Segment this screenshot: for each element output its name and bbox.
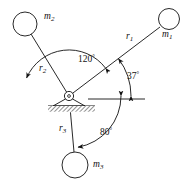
- arm-r2: [31, 34, 69, 96]
- pivot-dot: [68, 95, 71, 98]
- arm-r3-label: r3: [59, 124, 66, 134]
- mass-m3-label: m3: [93, 160, 103, 170]
- mass-m1-label: m1: [162, 30, 172, 40]
- pivot-support: [48, 91, 95, 112]
- arm-r1-label: r1: [126, 32, 133, 42]
- physics-diagram: m2 m1 m3 r1 r2 r3 120° 37° 80°: [0, 0, 192, 193]
- ground-hatching: [48, 106, 95, 112]
- angle-label-80: 80°: [100, 128, 112, 138]
- angle-label-120: 120°: [78, 55, 95, 65]
- angle-arc-80: [78, 96, 121, 147]
- mass-m2-circle: [13, 12, 37, 36]
- mass-m1-circle: [159, 9, 180, 30]
- arm-r2-label: r2: [39, 64, 46, 74]
- mass-m3-circle: [62, 152, 88, 178]
- angle-label-37: 37°: [127, 72, 139, 82]
- mass-m2-label: m2: [44, 12, 54, 22]
